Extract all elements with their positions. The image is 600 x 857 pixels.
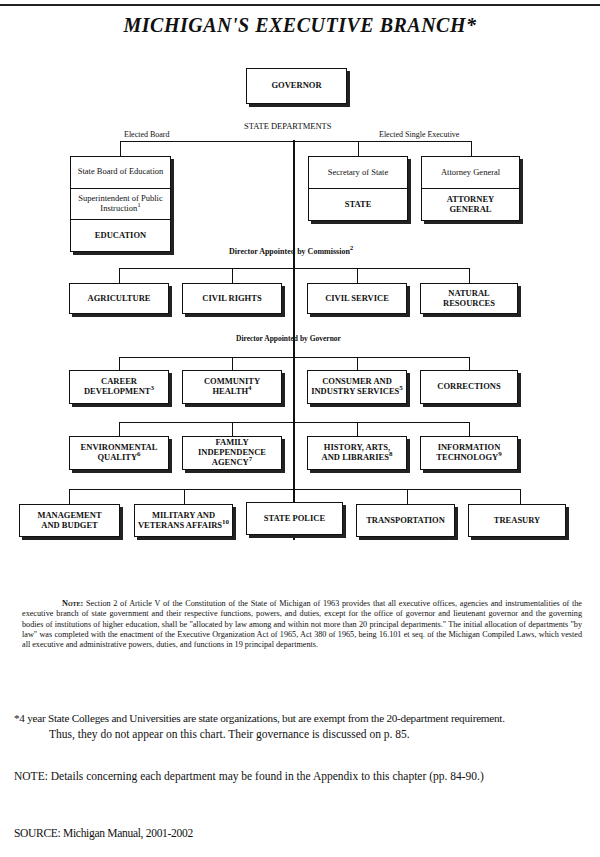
dept-label: CIVIL SERVICE [325, 294, 389, 304]
governor-box: GOVERNOR [246, 68, 347, 104]
dept-treasury: TREASURY [468, 504, 566, 537]
attorney-general-department: ATTORNEY GENERAL [422, 188, 519, 220]
connector [520, 489, 521, 504]
dept-label: CAREER DEVELOPMENT [84, 376, 151, 396]
dept-label: CONSUMER AND INDUSTRY SERVICES [311, 376, 399, 396]
note-lead: Note: [62, 599, 83, 608]
dept-history-arts-libraries: HISTORY, ARTS, AND LIBRARIES8 [307, 436, 407, 470]
connector [119, 357, 120, 370]
dept-label: TRANSPORTATION [366, 516, 445, 526]
row1-connector [119, 357, 469, 358]
state-departments-label: STATE DEPARTMENTS [244, 121, 332, 131]
footnote-marker: 1 [137, 201, 141, 209]
connector [232, 268, 233, 283]
top-rule [0, 4, 600, 6]
commission-label: Director Appointed by Commission2 [229, 247, 353, 256]
superintendent-label: Superintendent of Public Instruction [78, 193, 163, 213]
dept-community-health: COMMUNITY HEALTH4 [182, 370, 282, 404]
connector [119, 268, 120, 283]
dept-civil-service: CIVIL SERVICE [307, 283, 407, 314]
dept-label: FAMILY INDEPENDENCE AGENCY [198, 437, 266, 467]
dept-label: INFORMATION TECHNOLOGY [436, 442, 500, 462]
education-department: EDUCATION [71, 219, 170, 251]
row3-connector [69, 489, 520, 490]
elected-board-label: Elected Board [124, 130, 170, 139]
source-note: SOURCE: Michigan Manual, 2001-2002 [14, 825, 193, 841]
footnote-marker: 8 [389, 450, 393, 458]
governor-label: GOVERNOR [271, 81, 321, 91]
commission-label-text: Director Appointed by Commission [229, 247, 350, 256]
superintendent: Superintendent of Public Instruction1 [71, 188, 170, 220]
connector [120, 141, 121, 156]
dept-environmental-quality: ENVIRONMENTAL QUALITY6 [69, 436, 169, 470]
state-box: Secretary of State STATE [308, 156, 408, 221]
dept-transportation: TRANSPORTATION [356, 504, 455, 537]
dept-information-technology: INFORMATION TECHNOLOGY9 [420, 436, 518, 470]
asterisk-footnote-line2: Thus, they do not appear on this chart. … [49, 726, 410, 742]
connector [358, 141, 359, 156]
dept-career-development: CAREER DEVELOPMENT3 [69, 370, 169, 404]
connector [469, 268, 470, 283]
dept-family-independence-agency: FAMILY INDEPENDENCE AGENCY7 [182, 436, 282, 470]
connector [119, 422, 120, 436]
dept-military-veterans-affairs: MILITARY AND VETERANS AFFAIRS10 [134, 504, 233, 537]
footnote-marker: 3 [151, 384, 155, 392]
governor-appointed-label: Director Appointed by Governor [236, 334, 341, 343]
dept-civil-rights: CIVIL RIGHTS [182, 283, 282, 314]
dept-label: CIVIL RIGHTS [202, 294, 261, 304]
dept-state-police: STATE POLICE [246, 502, 343, 535]
commission-connector [119, 268, 469, 269]
row2-connector [119, 422, 469, 423]
attorney-general-box: Attorney General ATTORNEY GENERAL [421, 156, 520, 221]
secretary-of-state: Secretary of State [309, 157, 407, 188]
dept-agriculture: AGRICULTURE [69, 283, 169, 314]
dept-label: CORRECTIONS [437, 382, 500, 392]
connector [232, 357, 233, 370]
dept-label: AGRICULTURE [88, 294, 151, 304]
state-board-of-education: State Board of Education [71, 157, 170, 188]
footnote-marker: 2 [350, 244, 354, 252]
page-title: MICHIGAN'S EXECUTIVE BRANCH* [0, 14, 600, 37]
connector [407, 489, 408, 504]
footnote-marker: 4 [248, 384, 252, 392]
dept-label: ENVIRONMENTAL QUALITY [81, 442, 158, 462]
footnote-marker: 6 [137, 450, 141, 458]
dept-natural-resources: NATURAL RESOURCES [420, 283, 518, 314]
footnote-marker: 7 [249, 455, 253, 463]
footnote-marker: 9 [498, 450, 502, 458]
connector [232, 422, 233, 436]
connector [69, 489, 70, 504]
elected-connector [120, 141, 472, 142]
connector [469, 357, 470, 370]
constitution-note: Note: Section 2 of Article V of the Cons… [22, 599, 582, 650]
connector [469, 422, 470, 436]
dept-label: STATE POLICE [264, 514, 325, 524]
dept-management-budget: MANAGEMENT AND BUDGET [19, 504, 120, 537]
elected-single-executive-label: Elected Single Executive [379, 130, 459, 139]
dept-label: NATURAL RESOURCES [439, 289, 499, 309]
dept-label: TREASURY [494, 516, 540, 526]
note-text: Section 2 of Article V of the Constituti… [22, 599, 582, 649]
dept-label: MILITARY AND VETERANS AFFAIRS [138, 510, 222, 530]
dept-label: HISTORY, ARTS, AND LIBRARIES [322, 442, 391, 462]
footnote-marker: 10 [222, 518, 229, 526]
dept-consumer-industry-services: CONSUMER AND INDUSTRY SERVICES5 [307, 370, 407, 404]
attorney-general-official: Attorney General [422, 157, 519, 188]
connector [184, 489, 185, 504]
connector [357, 357, 358, 370]
connector [357, 422, 358, 436]
dept-label: MANAGEMENT AND BUDGET [35, 511, 105, 531]
education-box: State Board of Education Superintendent … [70, 156, 171, 252]
asterisk-footnote-line1: *4 year State Colleges and Universities … [14, 710, 505, 726]
connector [357, 268, 358, 283]
connector [471, 141, 472, 156]
details-note: NOTE: Details concerning each department… [14, 768, 484, 784]
dept-corrections: CORRECTIONS [420, 370, 518, 404]
footnote-marker: 5 [399, 384, 403, 392]
state-department: STATE [309, 188, 407, 220]
